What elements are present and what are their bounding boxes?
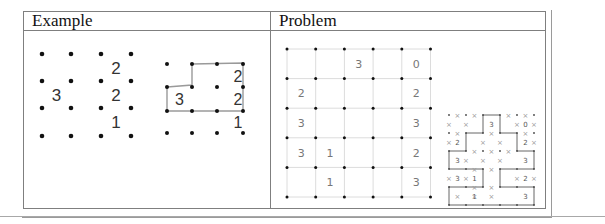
grid-dot	[516, 114, 518, 116]
grid-dot	[516, 186, 518, 188]
clue-number: 2	[413, 147, 420, 160]
cross-mark: ×	[472, 193, 478, 201]
grid-dot	[516, 204, 518, 206]
cross-mark: ×	[480, 157, 486, 165]
clue-number: 2	[298, 87, 305, 100]
clue-number: 3	[523, 157, 527, 165]
table-header-row: Example Problem	[24, 12, 546, 31]
grid-dot	[241, 85, 245, 89]
grid-dot	[129, 79, 134, 84]
grid-dot	[241, 109, 245, 113]
clue-number: 2	[234, 68, 243, 85]
grid-dot	[69, 79, 74, 84]
cross-mark: ×	[472, 148, 478, 156]
grid-dot	[129, 52, 134, 57]
grid-dot	[241, 62, 245, 66]
clue-number: 3	[455, 175, 459, 183]
grid-dot	[215, 85, 219, 89]
cross-mark: ×	[506, 148, 512, 156]
grid-dot	[465, 132, 467, 134]
grid-dot	[400, 77, 403, 80]
grid-dot	[465, 186, 467, 188]
grid-dot	[343, 166, 346, 169]
cross-mark: ×	[489, 184, 495, 192]
clue-number: 2	[234, 91, 243, 108]
grid-dot	[533, 150, 535, 152]
clue-number: 2	[523, 139, 527, 147]
cross-mark: ×	[531, 121, 537, 129]
clue-number: 3	[355, 58, 362, 71]
header-problem: Problem	[271, 12, 546, 31]
grid-dot	[516, 150, 518, 152]
grid-dot	[499, 114, 501, 116]
clue-number: 3	[413, 176, 420, 189]
grid-dot	[129, 134, 134, 139]
grid-dot	[314, 196, 317, 199]
grid-dot	[286, 48, 289, 51]
cross-mark: ×	[480, 139, 486, 147]
grid-dot	[372, 136, 375, 139]
grid-dot	[499, 168, 501, 170]
grid-dot	[516, 132, 518, 134]
grid-dot	[165, 109, 169, 113]
grid-dot	[129, 106, 134, 111]
clue-number: 3	[298, 117, 305, 130]
grid-dot	[400, 107, 403, 110]
grid-dot	[482, 204, 484, 206]
grid-dot	[400, 48, 403, 51]
grid-dot	[314, 48, 317, 51]
grid-dot	[314, 136, 317, 139]
grid-dot	[40, 106, 45, 111]
cross-mark: ×	[489, 148, 495, 156]
grid-dot	[429, 48, 432, 51]
grid-dot	[533, 132, 535, 134]
grid-dot	[99, 106, 104, 111]
cross-mark: ×	[463, 175, 469, 183]
clue-number: 3	[413, 117, 420, 130]
clue-number: 3	[489, 121, 493, 129]
grid-dot	[165, 62, 169, 66]
cross-mark: ×	[463, 157, 469, 165]
grid-dot	[286, 136, 289, 139]
grid-dot	[499, 132, 501, 134]
cross-mark: ×	[531, 139, 537, 147]
grid-dot	[343, 48, 346, 51]
grid-dot	[286, 166, 289, 169]
grid-dot	[400, 166, 403, 169]
grid-dot	[372, 166, 375, 169]
cross-mark: ×	[472, 112, 478, 120]
grid-dot	[448, 204, 450, 206]
cross-mark: ×	[497, 139, 503, 147]
cross-mark: ×	[455, 112, 461, 120]
cross-mark: ×	[489, 130, 495, 138]
grid-dot	[482, 186, 484, 188]
grid-dot	[99, 79, 104, 84]
grid-dot	[314, 166, 317, 169]
grid-dot	[482, 114, 484, 116]
grid-dot	[482, 168, 484, 170]
example-problem-table: Example Problem 23212321 302233312133022…	[23, 11, 546, 209]
cross-mark: ×	[514, 121, 520, 129]
grid-dot	[400, 196, 403, 199]
clue-number: 2	[111, 86, 120, 105]
clue-number: 2	[413, 87, 420, 100]
grid-dot	[448, 186, 450, 188]
example-cell: 23212321	[24, 31, 271, 209]
clue-number: 0	[523, 121, 527, 129]
cross-mark: ×	[514, 175, 520, 183]
clue-number: 3	[298, 147, 305, 160]
grid-dot	[465, 168, 467, 170]
clue-number: 1	[472, 175, 476, 183]
grid-dot	[516, 168, 518, 170]
grid-dot	[99, 52, 104, 57]
clue-number: 3	[523, 193, 527, 201]
grid-dot	[429, 107, 432, 110]
grid-dot	[465, 114, 467, 116]
grid-dot	[429, 196, 432, 199]
grid-dot	[372, 196, 375, 199]
cross-mark: ×	[489, 166, 495, 174]
grid-dot	[165, 131, 169, 135]
grid-dot	[429, 166, 432, 169]
clue-number: 0	[413, 58, 420, 71]
grid-dot	[448, 114, 450, 116]
